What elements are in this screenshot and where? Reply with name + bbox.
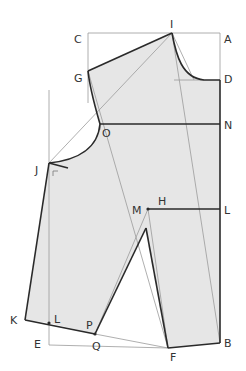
label-h: H: [158, 195, 166, 208]
label-e: E: [34, 338, 41, 351]
label-f: F: [170, 351, 176, 364]
label-c: C: [74, 33, 82, 46]
label-k: K: [10, 314, 18, 327]
point-p: [93, 332, 96, 335]
point-m: [146, 207, 149, 210]
label-b: B: [224, 337, 232, 350]
label-a: A: [224, 33, 232, 46]
label-q: Q: [92, 340, 101, 353]
label-g: G: [74, 72, 83, 85]
label-n: N: [224, 119, 232, 132]
label-p: P: [86, 319, 93, 332]
point-l: [47, 321, 50, 324]
label-d: D: [224, 73, 232, 86]
label-m: M: [132, 204, 142, 217]
label-l-left: L: [54, 313, 61, 326]
label-o: O: [102, 127, 111, 140]
label-i: I: [170, 18, 173, 31]
label-l-right: L: [224, 204, 231, 217]
pattern-diagram: I A C G D O N J M H L K L P E Q F B: [0, 0, 246, 371]
label-j: J: [34, 164, 38, 177]
